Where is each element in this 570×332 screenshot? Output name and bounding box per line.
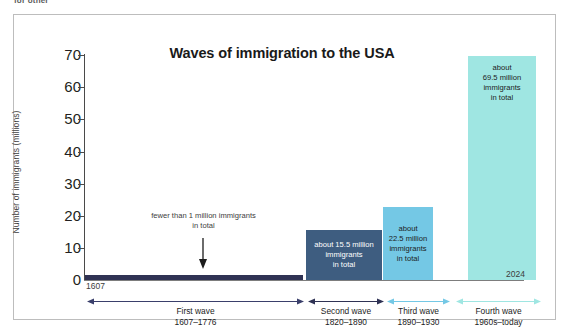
bar-first-wave[interactable] — [85, 275, 303, 280]
span-first-wave: First wave 1607–1776 — [87, 297, 304, 331]
x-axis-line — [84, 280, 524, 281]
bar-fourth-wave-label: about 69.5 million immigrants in total — [468, 56, 536, 103]
y-tick-mark-60 — [78, 87, 85, 88]
span-fourth-wave-label: Fourth wave 1960s–today — [446, 306, 551, 328]
y-axis-title: Number of immigrants (millions) — [11, 0, 21, 87]
y-tick-mark-20 — [78, 216, 85, 217]
y-tick-mark-40 — [78, 152, 85, 153]
y-tick-mark-50 — [78, 119, 85, 120]
span-second-wave: Second wave 1820–1890 — [308, 297, 384, 331]
span-fourth-wave: Fourth wave 1960s–today — [456, 297, 541, 331]
y-axis-title-label: Number of immigrants (millions) — [11, 87, 21, 257]
axis-start-year-label: 1607 — [86, 281, 105, 291]
span-third-wave: Third wave 1890–1930 — [387, 297, 450, 331]
bar-second-wave[interactable]: about 15.5 million immigrants in total — [306, 230, 382, 280]
axis-end-year-label: 2024 — [506, 269, 525, 279]
span-first-wave-label: First wave 1607–1776 — [77, 306, 314, 328]
y-tick-label-0: 0 — [73, 271, 81, 289]
span-second-wave-arrow — [308, 297, 384, 306]
bar-third-wave-label: about 22.5 million immigrants in total — [383, 224, 433, 264]
plot-area: fewer than 1 million immigrants in total… — [85, 55, 522, 280]
first-wave-callout-text: fewer than 1 million immigrants in total — [121, 211, 286, 231]
y-tick-mark-30 — [78, 184, 85, 185]
callout-down-arrow — [197, 238, 209, 270]
span-first-wave-arrow — [87, 297, 304, 306]
bar-fourth-wave[interactable]: about 69.5 million immigrants in total — [468, 56, 536, 280]
figure-root: for other Waves of immigration to the US… — [0, 0, 570, 332]
y-tick-mark-70 — [78, 55, 85, 56]
y-tick-mark-10 — [78, 248, 85, 249]
bar-second-wave-label: about 15.5 million immigrants in total — [306, 240, 382, 270]
span-fourth-wave-arrow — [456, 297, 541, 306]
chart-card: Waves of immigration to the USA Number o… — [13, 14, 556, 320]
span-third-wave-arrow — [387, 297, 450, 306]
bar-third-wave[interactable]: about 22.5 million immigrants in total — [383, 207, 433, 280]
